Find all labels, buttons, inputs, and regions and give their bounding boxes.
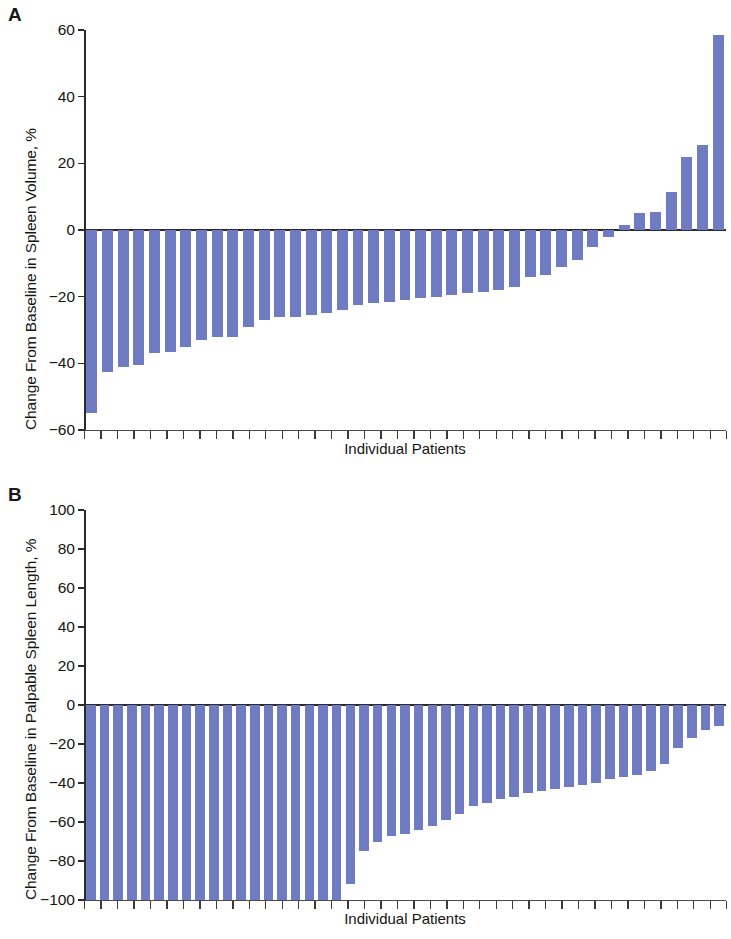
bar (431, 230, 442, 297)
bar (373, 705, 383, 842)
bar (321, 230, 332, 313)
panel-b-x-tickmark (331, 901, 332, 909)
bar (414, 705, 424, 830)
panel-b-letter: B (8, 484, 22, 506)
bar (236, 705, 246, 900)
panel-b-y-tickmark-9 (78, 860, 84, 862)
bar (681, 157, 692, 230)
bar (400, 705, 410, 834)
panel-a-x-tickmark (726, 431, 727, 439)
bar (523, 705, 533, 793)
bar (496, 705, 506, 799)
panel-a: A Change From Baseline in Spleen Volume,… (0, 0, 731, 470)
bar (243, 230, 254, 327)
bar (149, 230, 160, 353)
panel-a-y-tick-5: −40 (49, 354, 75, 372)
panel-a-x-tickmark (380, 431, 381, 439)
panel-b-x-tickmark (693, 901, 694, 909)
panel-a-x-tickmark (430, 431, 431, 439)
panel-a-x-tickmark (314, 431, 315, 439)
bar (182, 705, 192, 900)
bar (196, 230, 207, 340)
bar (290, 230, 301, 317)
panel-a-x-tickmark (512, 431, 513, 439)
panel-b-y-tick-10: −100 (40, 891, 75, 909)
bar (666, 192, 677, 230)
panel-a-x-axis-label: Individual Patients (84, 440, 726, 457)
bar (540, 230, 551, 275)
panel-b-x-tickmark (347, 901, 348, 909)
bar (168, 705, 178, 900)
panel-a-x-tickmark (216, 431, 217, 439)
panel-a-y-tick-labels: 6040200−20−40−60 (0, 30, 75, 430)
panel-a-x-tickmark (578, 431, 579, 439)
panel-b-x-tickmark (512, 901, 513, 909)
bar (368, 230, 379, 303)
bar (274, 230, 285, 317)
panel-b-x-tickmark (726, 901, 727, 909)
panel-a-x-tickmark (347, 431, 348, 439)
panel-b-y-tick-2: 60 (58, 579, 75, 597)
panel-b-x-tickmark (166, 901, 167, 909)
panel-a-x-tickmark (265, 431, 266, 439)
panel-b-x-tickmark (298, 901, 299, 909)
panel-a-x-tickmark (298, 431, 299, 439)
bar (564, 705, 574, 787)
panel-a-y-tick-3: 0 (66, 221, 75, 239)
panel-b-x-tickmark (84, 901, 85, 909)
bar (118, 230, 129, 367)
panel-b-x-tickmark (364, 901, 365, 909)
panel-a-x-tickmark (84, 431, 85, 439)
bar (180, 230, 191, 347)
panel-a-x-tickmark (133, 431, 134, 439)
bar (687, 705, 697, 738)
panel-a-y-tick-1: 40 (58, 88, 75, 106)
bar (332, 705, 342, 900)
bar (353, 230, 364, 305)
panel-a-y-tick-4: −20 (49, 288, 75, 306)
bar (387, 705, 397, 836)
panel-a-x-tickmark (496, 431, 497, 439)
bar (291, 705, 301, 900)
panel-b-y-tick-1: 80 (58, 540, 75, 558)
bar (455, 705, 465, 814)
bar (318, 705, 328, 900)
bar (550, 705, 560, 789)
panel-b-y-tickmark-3 (78, 626, 84, 628)
panel-b-x-tickmark (282, 901, 283, 909)
bar (462, 230, 473, 293)
bar (605, 705, 615, 779)
panel-b-x-tickmark (413, 901, 414, 909)
bar (441, 705, 451, 820)
bar (305, 705, 315, 900)
bar (223, 705, 233, 900)
panel-a-x-tickmark (644, 431, 645, 439)
panel-a-x-tickmark (479, 431, 480, 439)
panel-b-x-tickmark (150, 901, 151, 909)
bar (701, 705, 711, 730)
panel-a-x-tickmark (611, 431, 612, 439)
panel-b-x-tickmark (677, 901, 678, 909)
panel-b-x-tickmark (265, 901, 266, 909)
bar (306, 230, 317, 315)
bar (619, 705, 629, 777)
panel-a-x-tickmark (232, 431, 233, 439)
panel-a-x-tickmark (199, 431, 200, 439)
panel-a-x-tickmark (594, 431, 595, 439)
panel-a-y-tickmark-0 (78, 29, 84, 31)
panel-b-x-tickmark (627, 901, 628, 909)
bar (525, 230, 536, 277)
bar (127, 705, 137, 900)
bar (673, 705, 683, 748)
bar (209, 705, 219, 900)
panel-b-x-tickmark (249, 901, 250, 909)
panel-a-x-tickmark (545, 431, 546, 439)
panel-b-x-tickmark (430, 901, 431, 909)
bar (86, 230, 97, 413)
bar (415, 230, 426, 298)
bar (660, 705, 670, 764)
panel-b-y-tickmark-8 (78, 821, 84, 823)
panel-a-y-tick-2: 20 (58, 154, 75, 172)
panel-b-y-tick-0: 100 (49, 501, 75, 519)
panel-b-plot-area (84, 510, 726, 900)
